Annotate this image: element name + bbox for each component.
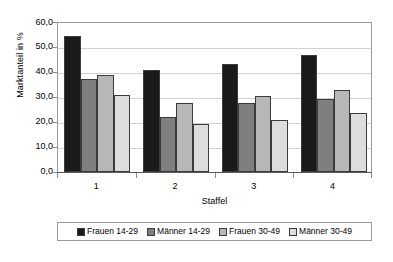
x-tick-label: 4 [313,181,353,191]
legend-swatch-icon [77,228,85,236]
y-tick-label: 20,0 [19,117,53,126]
y-axis-title: Marktanteil in % [15,10,25,120]
legend-item-label: Männer 14-29 [157,227,210,236]
y-tick-label: 50,0 [19,42,53,51]
legend-swatch-icon [147,228,155,236]
legend-swatch-icon [289,228,297,236]
x-tick-label: 3 [234,181,274,191]
bar [176,103,193,172]
legend-item: Frauen 30-49 [219,227,280,236]
y-tick-label: 60,0 [19,18,53,27]
bar [81,79,98,172]
bar [160,117,177,172]
y-tick-label: 30,0 [19,92,53,101]
y-tick-label: 0,0 [19,167,53,176]
bar [64,36,81,172]
x-tick-mark [136,173,137,178]
legend-swatch-icon [219,228,227,236]
x-tick-mark [293,173,294,178]
x-tick-mark [57,173,58,178]
bar [222,64,239,172]
bar [301,55,318,172]
y-tick-label: 10,0 [19,142,53,151]
gridline [58,48,371,49]
legend-item-label: Frauen 30-49 [229,227,280,236]
legend-item-label: Männer 30-49 [299,227,352,236]
x-tick-mark [371,173,372,178]
bar [114,95,131,172]
legend-item: Männer 30-49 [289,227,352,236]
x-tick-label: 2 [155,181,195,191]
bar-chart: Marktanteil in % 60,050,040,030,020,010,… [0,0,393,262]
bar [350,113,367,172]
legend-item: Männer 14-29 [147,227,210,236]
bar [143,70,160,172]
y-tick-label: 40,0 [19,67,53,76]
bar [271,120,288,172]
bar [97,75,114,172]
x-tick-mark [215,173,216,178]
bar [238,103,255,172]
bar [334,90,351,172]
x-axis-title: Staffel [57,196,372,206]
chart-legend: Frauen 14-29Männer 14-29Frauen 30-49Männ… [57,222,372,241]
bar [255,96,272,172]
bar [317,99,334,173]
legend-item-label: Frauen 14-29 [87,227,138,236]
x-tick-label: 1 [76,181,116,191]
bar [193,124,210,172]
legend-item: Frauen 14-29 [77,227,138,236]
plot-area [57,22,372,173]
